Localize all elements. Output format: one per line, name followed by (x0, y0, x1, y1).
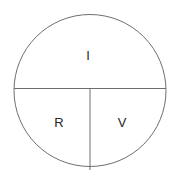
diagram-canvas: I R V (0, 0, 175, 185)
sector-label-bottom-right: V (118, 115, 127, 130)
sector-label-bottom-left: R (54, 115, 63, 130)
sector-label-top: I (86, 48, 90, 63)
ohms-law-circle-diagram: I R V (0, 0, 175, 185)
